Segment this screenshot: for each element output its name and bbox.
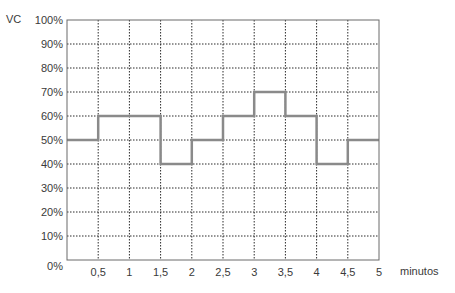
y-tick-label: 40%	[41, 158, 63, 170]
x-axis-label: minutos	[400, 265, 439, 277]
y-tick-label: 30%	[41, 182, 63, 194]
y-tick-label: 20%	[41, 206, 63, 218]
x-tick-label: 2,5	[215, 266, 230, 278]
step-chart: 0%10%20%30%40%50%60%70%80%90%100% 0,511,…	[0, 0, 455, 293]
y-tick-label: 60%	[41, 110, 63, 122]
x-axis-ticks: 0,511,522,533,544,55	[91, 266, 383, 278]
x-tick-label: 4,5	[340, 266, 355, 278]
x-tick-label: 4	[314, 266, 320, 278]
y-tick-label: 90%	[41, 38, 63, 50]
y-tick-label: 0%	[47, 260, 63, 272]
x-tick-label: 1	[126, 266, 132, 278]
x-tick-label: 1,5	[153, 266, 168, 278]
y-tick-label: 10%	[41, 230, 63, 242]
y-axis-ticks: 0%10%20%30%40%50%60%70%80%90%100%	[35, 14, 63, 272]
y-tick-label: 80%	[41, 62, 63, 74]
y-axis-label: VC	[6, 13, 21, 25]
y-tick-label: 100%	[35, 14, 63, 26]
x-tick-label: 3,5	[278, 266, 293, 278]
y-tick-label: 70%	[41, 86, 63, 98]
x-tick-label: 3	[251, 266, 257, 278]
x-tick-label: 2	[189, 266, 195, 278]
y-tick-label: 50%	[41, 134, 63, 146]
x-tick-label: 0,5	[91, 266, 106, 278]
x-tick-label: 5	[376, 266, 382, 278]
